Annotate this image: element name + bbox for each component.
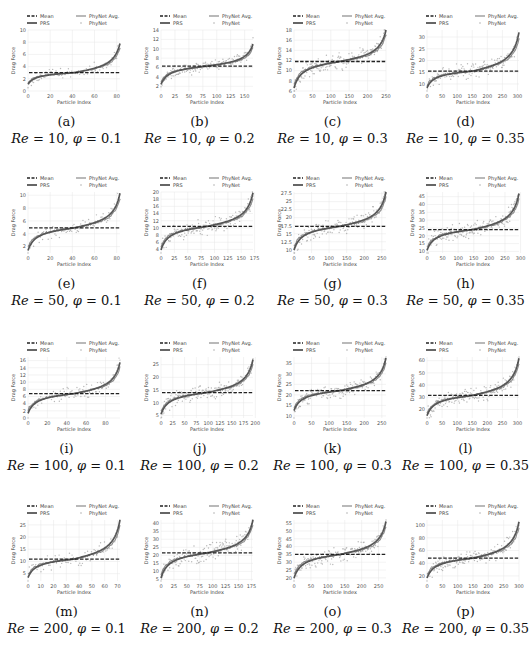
subplot-label: (j) bbox=[133, 441, 266, 456]
y-tick-label: 10 bbox=[286, 413, 292, 419]
y-tick-label: 10 bbox=[20, 379, 26, 385]
phynet-scatter bbox=[293, 191, 386, 253]
x-tick-label: 60 bbox=[101, 583, 107, 589]
re-value: 200 bbox=[44, 621, 69, 636]
y-tick-label: 35 bbox=[286, 551, 292, 557]
y-tick-label: 20 bbox=[286, 392, 292, 398]
x-tick-label: 250 bbox=[500, 255, 510, 261]
x-axis-label: Particle Index bbox=[456, 426, 490, 432]
y-tick-label: 10 bbox=[153, 225, 159, 231]
prs-line bbox=[294, 522, 386, 579]
y-tick-label: 10 bbox=[153, 400, 159, 406]
re-value: 50 bbox=[443, 293, 460, 308]
phynet-avg-line bbox=[294, 196, 386, 246]
y-tick-label: 80 bbox=[419, 535, 425, 541]
chart-svg: MeanPRSPhyNet Avg.PhyNet246810020406080P… bbox=[0, 162, 133, 274]
y-tick-label: 15 bbox=[286, 231, 292, 237]
y-tick-label: 30 bbox=[153, 536, 159, 542]
x-tick-label: 175 bbox=[247, 583, 257, 589]
legend: MeanPRSPhyNet Avg.PhyNet bbox=[160, 13, 253, 27]
y-tick-label: 20 bbox=[153, 552, 159, 558]
chart-svg: MeanPRSPhyNet Avg.PhyNet6810121416180501… bbox=[266, 0, 399, 112]
subplot-label: (k) bbox=[266, 441, 399, 456]
y-tick-label: 40 bbox=[153, 520, 159, 526]
legend-phynet-avg: PhyNet Avg. bbox=[89, 503, 120, 510]
subplot-label: (h) bbox=[399, 276, 532, 291]
legend-phynet-avg: PhyNet Avg. bbox=[89, 340, 120, 347]
subplot-e: MeanPRSPhyNet Avg.PhyNet246810020406080P… bbox=[0, 162, 133, 274]
legend-mean: Mean bbox=[439, 13, 453, 19]
legend-phynet-avg: PhyNet Avg. bbox=[355, 503, 386, 510]
y-tick-label: 25 bbox=[153, 361, 159, 367]
x-axis-label: Particle Index bbox=[190, 261, 224, 267]
y-axis-label: Drag Force bbox=[143, 537, 150, 564]
y-tick-label: 6 bbox=[23, 393, 26, 399]
subplot-b: MeanPRSPhyNet Avg.PhyNet2468101214025507… bbox=[133, 0, 266, 112]
y-tick-label: 4 bbox=[156, 74, 159, 80]
y-tick-label: 12.5 bbox=[281, 239, 292, 245]
subplot-parameters: Re = 100, φ = 0.1 bbox=[0, 458, 133, 473]
subplot-parameters: Re = 100, φ = 0.2 bbox=[133, 458, 266, 473]
x-tick-label: 25 bbox=[172, 93, 178, 99]
prs-line bbox=[427, 32, 519, 87]
y-tick-label: 22.5 bbox=[281, 206, 292, 212]
subplot-label: (f) bbox=[133, 276, 266, 291]
y-tick-label: 35 bbox=[153, 528, 159, 534]
y-tick-label: 15 bbox=[153, 387, 159, 393]
legend-phynet-avg: PhyNet Avg. bbox=[488, 175, 519, 182]
x-tick-label: 80 bbox=[102, 420, 108, 426]
legend: MeanPRSPhyNet Avg.PhyNet bbox=[426, 175, 519, 189]
legend-mean: Mean bbox=[173, 175, 187, 181]
phi-value: 0.3 bbox=[371, 458, 392, 473]
x-tick-label: 200 bbox=[363, 93, 373, 99]
x-tick-label: 20 bbox=[44, 420, 50, 426]
y-tick-label: 45 bbox=[286, 536, 292, 542]
phynet-avg-line bbox=[161, 525, 253, 575]
x-axis-label: Particle Index bbox=[456, 261, 490, 267]
phynet-scatter bbox=[160, 358, 253, 419]
phi-value: 0.1 bbox=[105, 621, 126, 636]
legend-phynet-avg: PhyNet Avg. bbox=[488, 340, 519, 347]
phynet-scatter bbox=[27, 193, 120, 254]
legend-mean: Mean bbox=[306, 340, 320, 346]
y-tick-label: 14 bbox=[286, 47, 292, 53]
chart-svg: MeanPRSPhyNet Avg.PhyNet1015202530350501… bbox=[266, 327, 399, 439]
re-value: 10 bbox=[48, 131, 65, 146]
subplot-label: (l) bbox=[399, 441, 532, 456]
prs-line bbox=[294, 30, 386, 88]
re-value: 10 bbox=[314, 131, 331, 146]
phynet-scatter bbox=[293, 356, 386, 418]
x-tick-label: 150 bbox=[236, 255, 246, 261]
y-axis-label: Drag Force bbox=[276, 209, 283, 236]
x-tick-label: 0 bbox=[159, 255, 162, 261]
x-axis-label: Particle Index bbox=[456, 589, 490, 595]
legend-phynet: PhyNet bbox=[222, 20, 240, 27]
x-tick-label: 0 bbox=[425, 255, 428, 261]
y-tick-label: 14 bbox=[20, 365, 26, 371]
x-axis-label: Particle Index bbox=[323, 426, 357, 432]
subplot-parameters: Re = 50, φ = 0.35 bbox=[399, 293, 532, 308]
legend-prs: PRS bbox=[40, 182, 50, 188]
subplot-label: (g) bbox=[266, 276, 399, 291]
y-tick-label: 45 bbox=[419, 193, 425, 199]
re-value: 10 bbox=[443, 131, 460, 146]
legend: MeanPRSPhyNet Avg.PhyNet bbox=[160, 175, 253, 189]
y-tick-label: 60 bbox=[419, 357, 425, 363]
y-tick-label: 15 bbox=[286, 402, 292, 408]
y-tick-label: 30 bbox=[286, 559, 292, 565]
legend-prs: PRS bbox=[173, 182, 183, 188]
prs-line bbox=[427, 358, 519, 415]
legend-phynet-avg: PhyNet Avg. bbox=[222, 13, 253, 20]
legend: MeanPRSPhyNet Avg.PhyNet bbox=[160, 340, 253, 354]
x-tick-label: 50 bbox=[309, 93, 315, 99]
x-tick-label: 0 bbox=[159, 420, 162, 426]
x-tick-label: 50 bbox=[439, 420, 445, 426]
legend-phynet: PhyNet bbox=[355, 20, 373, 27]
phynet-avg-line bbox=[161, 364, 253, 411]
y-tick-label: 20 bbox=[419, 573, 425, 579]
y-axis-label: Drag Force bbox=[10, 209, 17, 236]
y-tick-label: 15 bbox=[419, 69, 425, 75]
y-tick-label: 10 bbox=[286, 67, 292, 73]
phi-value: 0.3 bbox=[367, 293, 388, 308]
chart-svg: MeanPRSPhyNet Avg.PhyNet2040608010005010… bbox=[399, 490, 532, 602]
